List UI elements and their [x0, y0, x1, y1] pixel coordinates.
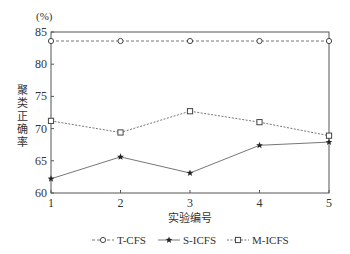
- y-axis-title-char: 确: [17, 123, 28, 136]
- y-unit-label: (%): [36, 10, 53, 23]
- circle-marker-icon: [118, 38, 123, 43]
- x-tick-label: 3: [187, 196, 193, 210]
- y-tick-label: 70: [35, 122, 47, 136]
- line-chart: 606570758085 12345 (%) 聚类正确率 实验编号 T-CFSS…: [0, 0, 350, 254]
- series-layer: [48, 38, 333, 181]
- y-tick-label: 80: [35, 57, 47, 71]
- square-marker-icon: [118, 130, 123, 135]
- circle-marker-icon: [48, 38, 53, 43]
- legend-label: M-ICFS: [252, 234, 289, 246]
- square-marker-icon: [326, 133, 331, 138]
- y-axis-title-char: 类: [17, 96, 28, 110]
- square-marker-icon: [235, 237, 240, 242]
- square-marker-icon: [187, 109, 192, 114]
- star-marker-icon: [256, 142, 263, 149]
- x-tick-label: 1: [48, 196, 54, 210]
- y-tick-label: 65: [35, 154, 47, 168]
- legend-item-m-icfs: M-ICFS: [227, 234, 289, 246]
- circle-marker-icon: [257, 38, 262, 43]
- legend-label: S-ICFS: [183, 234, 216, 246]
- legend-label: T-CFS: [117, 234, 146, 246]
- y-tick-label: 85: [35, 25, 47, 39]
- y-axis-title: 聚类正确率: [17, 84, 28, 149]
- x-tick-label: 5: [326, 196, 332, 210]
- circle-marker-icon: [187, 38, 192, 43]
- star-marker-icon: [187, 169, 194, 176]
- y-axis-title-char: 正: [17, 110, 28, 123]
- legend: T-CFSS-ICFSM-ICFS: [92, 234, 289, 246]
- star-marker-icon: [117, 153, 124, 160]
- legend-item-t-cfs: T-CFS: [92, 234, 146, 246]
- y-tick-label: 60: [35, 186, 47, 200]
- square-marker-icon: [257, 120, 262, 125]
- y-axis-title-char: 率: [17, 135, 28, 149]
- y-tick-label: 75: [35, 89, 47, 103]
- x-axis-title: 实验编号: [168, 211, 212, 225]
- series-line: [51, 111, 329, 136]
- x-tick-label: 4: [257, 196, 263, 210]
- series-s-icfs: [48, 139, 333, 182]
- y-axis-title-char: 聚: [17, 84, 28, 97]
- star-marker-icon: [166, 236, 173, 243]
- square-marker-icon: [48, 118, 53, 123]
- legend-item-s-icfs: S-ICFS: [158, 234, 216, 246]
- x-tick-label: 2: [118, 196, 124, 210]
- series-t-cfs: [48, 38, 331, 43]
- circle-marker-icon: [326, 38, 331, 43]
- circle-marker-icon: [100, 237, 105, 242]
- series-m-icfs: [48, 109, 331, 139]
